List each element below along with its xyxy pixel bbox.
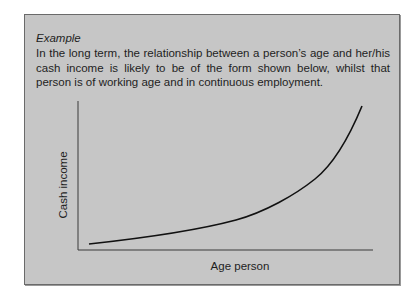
income-curve [89,106,362,244]
x-axis-label: Age person [175,260,305,272]
income-chart [25,15,401,286]
example-box: Example In the long term, the relationsh… [24,14,400,285]
y-axis-label: Cash income [57,140,69,230]
